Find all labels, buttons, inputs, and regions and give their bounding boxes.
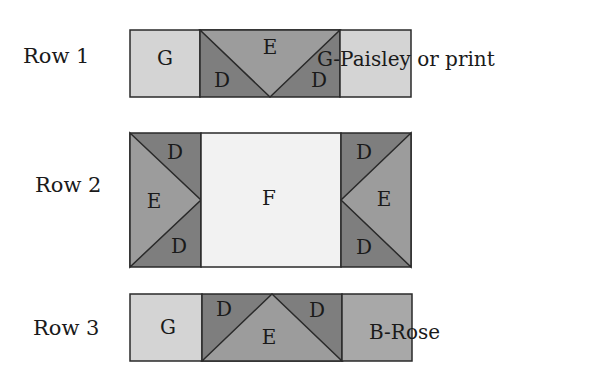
row-2-right-top-d-letter: D	[356, 140, 372, 164]
row-2-diagram: D E D F D E D	[130, 133, 411, 267]
row-3-diagram: G D E D B-Rose	[130, 294, 440, 361]
row-1-fabric-note: G-Paisley or print	[317, 47, 495, 71]
row-2-label: Row 2	[35, 175, 101, 196]
row-3-label: Row 3	[33, 318, 99, 339]
row-1-g-letter: G	[157, 46, 173, 70]
row-2-left-bottom-d-letter: D	[171, 234, 187, 258]
row-3-d-right-letter: D	[309, 298, 325, 322]
row-3-d-left-letter: D	[216, 297, 232, 321]
row-2-f-letter: F	[262, 186, 276, 210]
row-2-left-top-d-letter: D	[167, 140, 183, 164]
row-2-right-e-letter: E	[377, 187, 392, 211]
row-3-fabric-note: B-Rose	[369, 320, 440, 344]
row-2-right-bottom-d-letter: D	[356, 235, 372, 259]
row-3-e-letter: E	[262, 325, 277, 349]
row-1-label: Row 1	[23, 46, 89, 67]
row-1-e-letter: E	[263, 35, 278, 59]
row-2-left-e-letter: E	[147, 189, 162, 213]
row-1-d-left-letter: D	[214, 68, 230, 92]
row-1-diagram: G E D D G-Paisley or print	[130, 30, 495, 97]
row-1-d-right-letter: D	[311, 68, 327, 92]
row-3-g-letter: G	[160, 315, 176, 339]
